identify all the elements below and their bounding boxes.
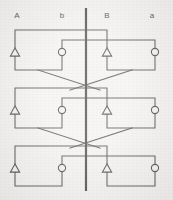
- label-B: B: [104, 11, 110, 20]
- cell-row1-right-circle-node-icon: [151, 106, 158, 113]
- label-b: b: [60, 11, 65, 20]
- label-a: a: [150, 11, 155, 20]
- cell-row2-right-circle-node-icon: [151, 164, 158, 171]
- lattice-diagram: AbBa: [0, 0, 173, 200]
- cell-row1-left-circle-node-icon: [58, 106, 65, 113]
- cell-row0-left-circle-node-icon: [58, 48, 65, 55]
- diagram-canvas: AbBa: [0, 0, 173, 200]
- cell-row0-right-circle-node-icon: [151, 48, 158, 55]
- label-A: A: [14, 11, 20, 20]
- cell-row2-left-circle-node-icon: [58, 164, 65, 171]
